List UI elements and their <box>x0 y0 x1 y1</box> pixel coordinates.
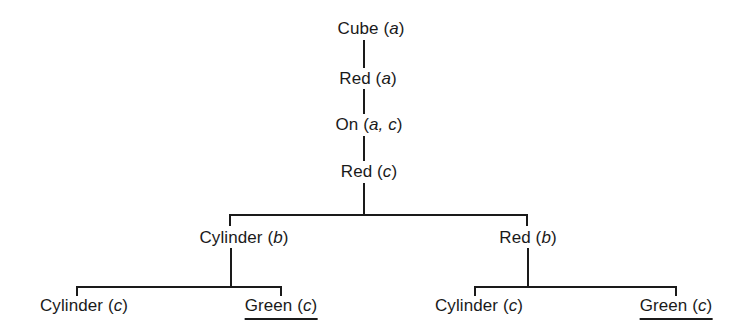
node-predicate: Green <box>245 296 293 315</box>
node-args: b <box>273 228 283 247</box>
paren-open: ( <box>531 228 542 247</box>
node-args: a <box>389 19 399 38</box>
node-cylinder-c-right: Cylinder (c) <box>435 297 523 315</box>
paren-close: ) <box>551 228 557 247</box>
paren-open: ( <box>358 115 369 134</box>
paren-open: ( <box>103 296 114 315</box>
node-args: a, c <box>369 115 397 134</box>
node-args: c <box>698 296 707 315</box>
paren-close: ) <box>707 296 713 315</box>
paren-open: ( <box>498 296 509 315</box>
node-cylinder-c-left: Cylinder (c) <box>40 297 128 315</box>
paren-open: ( <box>292 296 303 315</box>
paren-open: ( <box>379 19 390 38</box>
node-predicate: Cube <box>338 19 379 38</box>
node-predicate: Cylinder <box>40 296 103 315</box>
node-red-c: Red (c) <box>341 163 397 181</box>
node-predicate: Red <box>499 228 531 247</box>
node-args: b <box>541 228 551 247</box>
paren-close: ) <box>391 162 397 181</box>
node-green-c-left: Green (c) <box>245 297 318 320</box>
node-predicate: Red <box>341 162 373 181</box>
node-predicate: Cylinder <box>199 228 262 247</box>
node-predicate: Green <box>640 296 688 315</box>
paren-close: ) <box>122 296 128 315</box>
paren-close: ) <box>517 296 523 315</box>
node-red-a: Red (a) <box>339 70 396 88</box>
paren-open: ( <box>372 162 383 181</box>
node-args: a <box>381 69 391 88</box>
node-cube-a: Cube (a) <box>338 20 405 38</box>
paren-close: ) <box>399 19 405 38</box>
node-args: c <box>383 162 392 181</box>
node-predicate: Cylinder <box>435 296 498 315</box>
paren-close: ) <box>312 296 318 315</box>
node-red-b: Red (b) <box>499 229 556 247</box>
node-on-a-c: On (a, c) <box>335 116 402 134</box>
node-predicate: Red <box>339 69 371 88</box>
paren-close: ) <box>283 228 289 247</box>
paren-close: ) <box>397 115 403 134</box>
paren-open: ( <box>371 69 382 88</box>
node-args: c <box>303 296 312 315</box>
node-predicate: On <box>335 115 358 134</box>
paren-open: ( <box>687 296 698 315</box>
node-cylinder-b: Cylinder (b) <box>199 229 288 247</box>
node-green-c-right: Green (c) <box>640 297 713 320</box>
tree-diagram: Cube (a) Red (a) On (a, c) Red (c) Cylin… <box>0 0 750 334</box>
paren-open: ( <box>263 228 274 247</box>
paren-close: ) <box>391 69 397 88</box>
